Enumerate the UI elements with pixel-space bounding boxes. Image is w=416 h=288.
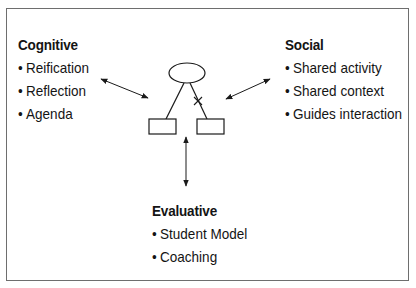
social-heading: Social xyxy=(285,36,402,53)
box-node-right xyxy=(197,119,224,134)
list-item: •Student Model xyxy=(152,225,247,242)
arrow-cognitive xyxy=(101,79,148,98)
bullet-icon: • xyxy=(18,105,26,122)
list-item: •Reflection xyxy=(18,82,89,99)
bullet-icon: • xyxy=(152,248,160,265)
cross-mark-icon xyxy=(194,97,202,105)
list-item: •Agenda xyxy=(18,105,89,122)
item-label: Coaching xyxy=(160,248,217,265)
bullet-icon: • xyxy=(285,82,293,99)
arrow-social xyxy=(226,79,270,99)
social-group: Social •Shared activity •Shared context … xyxy=(285,36,415,128)
bullet-icon: • xyxy=(152,225,160,242)
cognitive-heading: Cognitive xyxy=(18,36,89,53)
item-label: Reflection xyxy=(26,82,86,99)
ellipse-node xyxy=(169,63,205,83)
cognitive-group: Cognitive •Reification •Reflection •Agen… xyxy=(18,36,97,128)
item-label: Guides interaction xyxy=(293,105,402,122)
box-node-left xyxy=(149,119,176,134)
list-item: •Reification xyxy=(18,59,89,76)
bullet-icon: • xyxy=(18,82,26,99)
item-label: Reification xyxy=(26,59,89,76)
list-item: •Guides interaction xyxy=(285,105,402,122)
list-item: •Shared activity xyxy=(285,59,402,76)
item-label: Agenda xyxy=(26,105,73,122)
list-item: •Shared context xyxy=(285,82,402,99)
item-label: Shared activity xyxy=(293,59,382,76)
item-label: Shared context xyxy=(293,82,384,99)
list-item: •Coaching xyxy=(152,248,247,265)
evaluative-group: Evaluative •Student Model •Coaching xyxy=(152,202,258,271)
item-label: Student Model xyxy=(160,225,247,242)
bullet-icon: • xyxy=(18,59,26,76)
bullet-icon: • xyxy=(285,105,293,122)
evaluative-heading: Evaluative xyxy=(152,202,247,219)
edge-left xyxy=(166,83,184,119)
bullet-icon: • xyxy=(285,59,293,76)
